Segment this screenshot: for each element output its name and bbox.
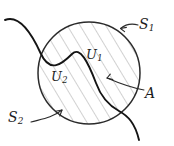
label-u1-base: U — [86, 47, 97, 62]
label-u2-sub: 2 — [62, 75, 67, 85]
label-s2-base: S — [8, 109, 18, 125]
label-s2-sub: 2 — [18, 116, 24, 126]
leader-s1 — [121, 24, 139, 32]
label-s1: S1 — [139, 17, 154, 33]
figure-container: S1 S2 A U1 U2 — [0, 0, 174, 146]
label-u2-base: U — [51, 69, 62, 84]
label-s1-sub: 1 — [149, 23, 155, 33]
label-u2: U2 — [51, 70, 67, 84]
label-u1-sub: 1 — [97, 53, 102, 63]
label-a-base: A — [145, 85, 155, 101]
arrowhead-s1 — [121, 27, 127, 31]
label-s2: S2 — [8, 110, 23, 126]
label-s1-base: S — [139, 16, 149, 32]
label-a: A — [145, 86, 155, 102]
label-u1: U1 — [86, 48, 102, 62]
